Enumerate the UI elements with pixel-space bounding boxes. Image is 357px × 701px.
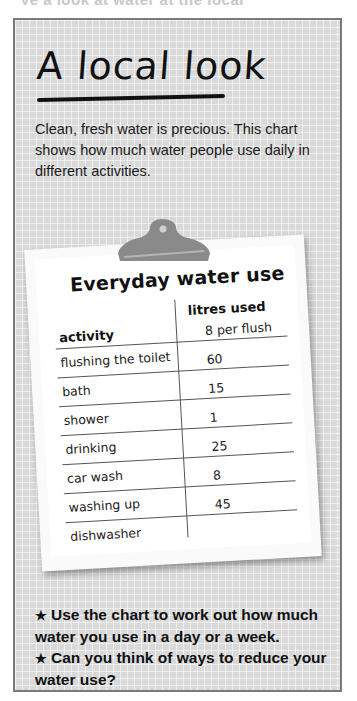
info-panel: A local look Clean, fresh water is preci…	[13, 18, 342, 692]
clipboard-paper: Everyday water use activity litres used …	[24, 234, 322, 571]
intro-text: Clean, fresh water is precious. This cha…	[35, 119, 325, 182]
activity-cell: bath	[62, 383, 91, 400]
litres-cell: 15	[208, 380, 225, 396]
header-partial-text: Ve a look at water at the local	[20, 0, 244, 8]
question-text: Use the chart to work out how much water…	[35, 606, 318, 645]
question-item: ★Can you think of ways to reduce your wa…	[35, 647, 335, 690]
paper-sheet: Everyday water use activity litres used …	[35, 245, 311, 557]
clipboard-clip-icon	[114, 217, 212, 263]
column-header-litres: litres used	[187, 299, 265, 318]
litres-cell: 1	[209, 410, 218, 425]
litres-cell: 8 per flush	[205, 319, 273, 338]
activity-cell: flushing the toilet	[60, 349, 171, 370]
title-underline	[37, 94, 225, 102]
star-icon: ★	[35, 651, 47, 666]
litres-cell: 25	[211, 438, 228, 454]
question-list: ★Use the chart to work out how much wate…	[35, 604, 335, 690]
column-header-activity: activity	[59, 327, 115, 345]
litres-cell: 45	[214, 496, 231, 512]
table-title: Everyday water use	[70, 262, 285, 296]
activity-cell: car wash	[67, 468, 124, 486]
litres-cell: 60	[206, 351, 223, 367]
litres-cell: 8	[213, 467, 222, 482]
activity-cell: dishwasher	[70, 525, 142, 544]
activity-cell: shower	[63, 411, 109, 428]
question-item: ★Use the chart to work out how much wate…	[35, 604, 335, 647]
star-icon: ★	[35, 608, 47, 623]
question-text: Can you think of ways to reduce your wat…	[35, 649, 327, 688]
activity-cell: drinking	[65, 439, 117, 457]
activity-cell: washing up	[68, 496, 140, 515]
panel-title: A local look	[35, 44, 268, 88]
